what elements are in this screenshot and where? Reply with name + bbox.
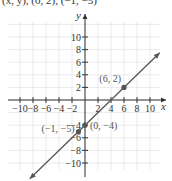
y-axis-label: y — [75, 9, 81, 21]
data-point — [82, 123, 87, 128]
grid — [8, 22, 160, 170]
x-tick-label: 4 — [109, 103, 114, 114]
x-axis-label: x — [160, 100, 166, 112]
data-line — [30, 53, 160, 179]
y-tick-label: 8 — [76, 44, 81, 55]
point-label: (0, −4) — [90, 120, 117, 132]
point-label: (−1, −5) — [42, 123, 75, 135]
line-y-equals-x-minus-4 — [30, 53, 160, 179]
y-tick-label: 6 — [76, 57, 81, 68]
data-point — [76, 129, 81, 134]
y-tick-label: 10 — [71, 32, 81, 43]
y-tick-label: −8 — [70, 145, 81, 156]
x-tick-label: −4 — [54, 103, 65, 114]
y-tick-label: 4 — [76, 69, 81, 80]
chart: xy −10−8−6−4−2246810108642−4−6−8−10 (6, … — [0, 0, 172, 181]
x-tick-label: −6 — [41, 103, 52, 114]
y-tick-label: −10 — [65, 158, 81, 169]
point-label: (6, 2) — [99, 73, 121, 85]
data-point — [121, 85, 126, 90]
x-tick-label: −2 — [67, 103, 78, 114]
y-tick-label: 2 — [76, 82, 81, 93]
y-axis-arrow-icon — [83, 14, 88, 19]
x-tick-label: −8 — [28, 103, 39, 114]
x-tick-label: 8 — [135, 103, 140, 114]
x-tick-label: 6 — [122, 103, 127, 114]
axes: xy — [8, 9, 166, 177]
x-tick-label: 10 — [145, 103, 155, 114]
x-tick-label: −10 — [12, 103, 28, 114]
